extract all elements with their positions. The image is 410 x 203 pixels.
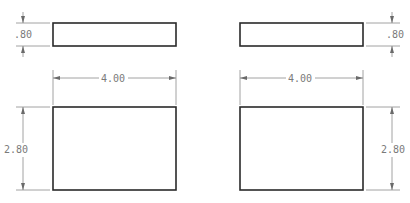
arrow-up-icon: [21, 107, 25, 114]
top-left-thin-view: .80: [14, 12, 176, 57]
thin-part-outline: [53, 23, 176, 46]
width-dimension-label: 4.00: [101, 73, 125, 84]
top-right-thin-view: .80: [240, 12, 404, 57]
width-dimension-label: 4.00: [288, 73, 312, 84]
arrow-down-icon: [390, 183, 394, 190]
height-dimension-label: 2.80: [381, 144, 405, 155]
arrow-up-icon: [390, 46, 394, 53]
arrow-right-icon: [356, 76, 363, 80]
arrow-left-icon: [240, 76, 247, 80]
height-dimension-label: 2.80: [4, 144, 28, 155]
arrow-up-icon: [390, 107, 394, 114]
arrow-down-icon: [21, 183, 25, 190]
thin-height-dimension-label: .80: [14, 29, 32, 40]
bottom-right-view: 4.00 2.80: [240, 70, 405, 190]
bottom-left-view: 4.00 2.80: [4, 70, 176, 190]
arrow-left-icon: [53, 76, 60, 80]
arrow-up-icon: [21, 46, 25, 53]
thin-height-dimension-label: .80: [386, 29, 404, 40]
arrow-down-icon: [390, 16, 394, 23]
thin-part-outline: [240, 23, 363, 46]
engineering-drawing: .80 .80 4.00 2.80: [0, 0, 410, 203]
arrow-right-icon: [169, 76, 176, 80]
part-outline: [53, 107, 176, 190]
part-outline: [240, 107, 363, 190]
arrow-down-icon: [21, 16, 25, 23]
